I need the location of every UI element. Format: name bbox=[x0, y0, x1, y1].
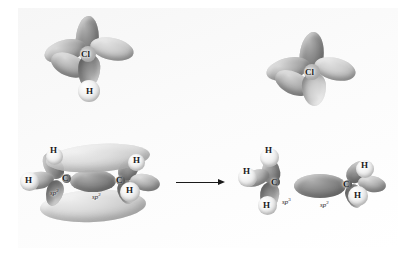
carbon-left-label: C bbox=[62, 174, 69, 183]
arrow-head bbox=[218, 179, 225, 185]
hybridization-left-exponent: 3 bbox=[288, 197, 291, 202]
molecule-chloride-ion: Cl bbox=[258, 30, 368, 120]
chlorine-label: Cl bbox=[81, 50, 90, 59]
carbon-right-label: C bbox=[343, 180, 350, 189]
hybridization-right: sp2 bbox=[92, 192, 101, 201]
molecule-hydrogen-chloride: Cl H bbox=[38, 14, 148, 114]
hydrogen-upper-right-label: H bbox=[361, 161, 368, 170]
molecule-ethyl-cation: C C H H H H H sp3 sp2 bbox=[238, 140, 408, 250]
hydrogen-bottom-left-label: H bbox=[263, 201, 270, 210]
ethyl-sigma-bond bbox=[294, 174, 346, 198]
hybridization-right-exponent: 2 bbox=[98, 192, 101, 197]
reaction-arrow bbox=[176, 179, 228, 187]
arrow-shaft bbox=[176, 182, 220, 183]
hydrogen-lower-right-label: H bbox=[354, 191, 361, 200]
hydrogen-lower-left-label: H bbox=[25, 176, 32, 185]
hybridization-left: sp3 bbox=[282, 197, 291, 206]
hybridization-right: sp2 bbox=[320, 200, 329, 209]
hydrogen-label: H bbox=[86, 87, 93, 96]
hydrogen-lower-right-label: H bbox=[126, 186, 133, 195]
hydrogen-upper-left-label: H bbox=[50, 146, 57, 155]
chloride-label: Cl bbox=[305, 68, 314, 77]
hybridization-left: sp2 bbox=[50, 188, 59, 197]
molecule-ethene: C C H H H H sp2 sp2 bbox=[12, 136, 172, 246]
hybridization-right-exponent: 2 bbox=[326, 200, 329, 205]
carbon-left-label: C bbox=[271, 178, 278, 187]
ethene-sigma-bond bbox=[70, 170, 116, 192]
hydrogen-top-left-label: H bbox=[265, 146, 272, 155]
hybridization-left-exponent: 2 bbox=[56, 188, 59, 193]
carbon-right-label: C bbox=[116, 176, 123, 185]
hydrogen-mid-left-label: H bbox=[243, 167, 250, 176]
hydrogen-upper-right-label: H bbox=[133, 156, 140, 165]
figure-canvas: Cl H Cl bbox=[0, 0, 416, 257]
